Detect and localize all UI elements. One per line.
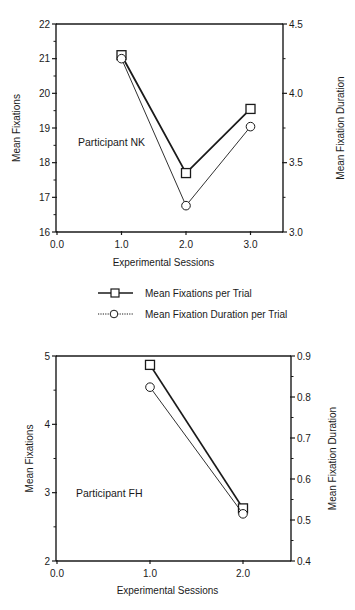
x-tick-label: 0.0 — [50, 239, 64, 250]
y-tick-label: 17 — [39, 192, 51, 203]
y-tick-label: 5 — [44, 351, 50, 362]
x-tick-label: 1.0 — [115, 239, 129, 250]
fixations-line — [122, 55, 251, 173]
y-right-axis-title: Mean Fixation Duration — [335, 76, 346, 179]
circle-marker-icon — [182, 201, 191, 210]
y-right-tick-label: 0.6 — [297, 474, 311, 485]
fixations-line — [150, 365, 243, 509]
square-marker-icon — [111, 289, 119, 297]
chart-participant-fh: 23450.40.50.60.70.80.90.01.02.0Experimen… — [24, 351, 338, 597]
circle-marker-icon — [117, 54, 126, 63]
figure: 161718192021223.03.54.04.50.01.02.03.0Ex… — [0, 0, 355, 610]
legend-label-fixations: Mean Fixations per Trial — [145, 288, 252, 299]
square-marker-icon — [146, 360, 155, 369]
y-axis-title: Mean Fixations — [24, 425, 35, 493]
participant-annotation: Participant NK — [78, 136, 145, 148]
y-right-tick-label: 4.0 — [289, 88, 303, 99]
y-tick-label: 18 — [39, 157, 51, 168]
y-right-tick-label: 0.7 — [297, 433, 311, 444]
circle-marker-icon — [246, 122, 255, 131]
y-right-tick-label: 4.5 — [289, 19, 303, 30]
legend: Mean Fixations per Trial Mean Fixation D… — [98, 288, 287, 320]
y-tick-label: 20 — [39, 88, 51, 99]
y-tick-label: 3 — [44, 487, 50, 498]
y-right-tick-label: 0.8 — [297, 392, 311, 403]
legend-label-duration: Mean Fixation Duration per Trial — [145, 309, 287, 320]
duration-line — [150, 387, 243, 514]
x-tick-label: 3.0 — [244, 239, 258, 250]
y-right-tick-label: 0.4 — [297, 556, 311, 567]
x-axis-title: Experimental Sessions — [117, 585, 219, 596]
circle-marker-icon — [146, 383, 155, 392]
square-marker-icon — [182, 169, 191, 178]
circle-marker-icon — [110, 310, 118, 318]
y-right-tick-label: 3.5 — [289, 157, 303, 168]
legend-entry-fixations: Mean Fixations per Trial — [98, 288, 252, 299]
y-right-tick-label: 3.0 — [289, 227, 303, 238]
x-axis-title: Experimental Sessions — [113, 257, 215, 268]
chart-participant-nk: 161718192021223.03.54.04.50.01.02.03.0Ex… — [11, 19, 346, 269]
y-tick-label: 4 — [44, 419, 50, 430]
circle-marker-icon — [239, 510, 248, 519]
y-right-tick-label: 0.9 — [297, 351, 311, 362]
y-tick-label: 19 — [39, 123, 51, 134]
y-tick-label: 22 — [39, 19, 51, 30]
y-right-tick-label: 0.5 — [297, 515, 311, 526]
y-tick-label: 21 — [39, 53, 51, 64]
x-tick-label: 2.0 — [236, 568, 250, 579]
y-tick-label: 2 — [44, 556, 50, 567]
y-tick-label: 16 — [39, 227, 51, 238]
legend-entry-duration: Mean Fixation Duration per Trial — [98, 309, 287, 320]
x-tick-label: 0.0 — [50, 568, 64, 579]
participant-annotation: Participant FH — [76, 487, 143, 499]
x-tick-label: 1.0 — [143, 568, 157, 579]
y-axis-title: Mean Fixations — [11, 94, 22, 162]
x-tick-label: 2.0 — [179, 239, 193, 250]
y-right-axis-title: Mean Fixation Duration — [327, 407, 338, 510]
duration-line — [122, 59, 251, 206]
square-marker-icon — [246, 104, 255, 113]
